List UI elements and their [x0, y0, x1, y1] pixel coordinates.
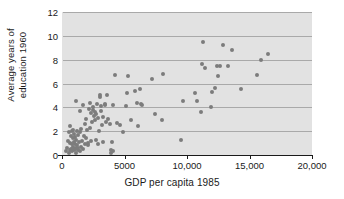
data-point — [133, 89, 137, 93]
y-axis-title-line-2: education 1960 — [17, 0, 29, 132]
x-tick-mark-10000 — [187, 155, 188, 159]
y-tick-label-2: 2 — [36, 126, 58, 137]
x-tick-mark-15000 — [250, 155, 251, 159]
data-point — [74, 99, 78, 103]
data-point — [126, 74, 130, 78]
y-tick-label-4: 4 — [36, 102, 58, 113]
data-point — [91, 105, 95, 109]
data-point — [83, 122, 87, 126]
x-axis-title: GDP per capita 1985 — [0, 177, 344, 188]
x-tick-label-10000: 10,000 — [172, 160, 201, 171]
data-point — [138, 87, 142, 91]
data-point — [88, 101, 92, 105]
data-point — [84, 117, 88, 121]
y-tick-label-6: 6 — [36, 78, 58, 89]
data-point — [88, 126, 92, 130]
data-point — [140, 103, 144, 107]
data-point — [125, 91, 129, 95]
data-point — [161, 72, 165, 76]
data-point — [78, 109, 82, 113]
data-point — [201, 40, 205, 44]
data-point — [203, 66, 207, 70]
data-point — [124, 104, 128, 108]
data-point — [101, 140, 105, 144]
data-point — [113, 73, 117, 77]
data-point — [101, 115, 105, 119]
data-point — [150, 77, 154, 81]
data-point — [81, 103, 85, 107]
data-point — [181, 99, 185, 103]
x-tick-label-20000: 20,000 — [297, 160, 326, 171]
data-point — [160, 118, 164, 122]
data-point — [129, 118, 133, 122]
data-point — [105, 93, 109, 97]
data-point — [239, 87, 243, 91]
gridline-y-6 — [62, 84, 312, 85]
data-point — [98, 93, 102, 97]
data-point — [255, 73, 259, 77]
y-tick-label-8: 8 — [36, 54, 58, 65]
data-point — [110, 140, 114, 144]
data-point — [136, 124, 140, 128]
gridline-y-10 — [62, 36, 312, 37]
data-point — [94, 138, 98, 142]
y-tick-label-12: 12 — [36, 7, 58, 18]
scatter-chart-figure: Average years of education 1960 02468101… — [0, 0, 344, 199]
data-point — [199, 110, 203, 114]
x-tick-label-0: 0 — [59, 160, 64, 171]
data-point — [108, 122, 112, 126]
y-axis-line — [62, 12, 63, 156]
data-point — [99, 109, 103, 113]
y-axis-title-line-1: Average years of — [5, 0, 17, 132]
data-point — [96, 142, 100, 146]
data-point — [179, 138, 183, 142]
data-point — [213, 86, 217, 90]
y-axis-title: Average years of education 1960 — [5, 0, 35, 132]
gridline-y-12 — [62, 12, 312, 13]
y-tick-label-0: 0 — [36, 150, 58, 161]
data-point — [89, 139, 93, 143]
data-point — [221, 43, 225, 47]
data-point — [230, 48, 234, 52]
x-tick-label-5000: 5000 — [114, 160, 135, 171]
x-tick-mark-20000 — [312, 155, 313, 159]
data-point — [106, 117, 110, 121]
data-point — [103, 102, 107, 106]
y-tick-mark-0 — [58, 155, 62, 156]
data-point — [84, 136, 88, 140]
data-point — [218, 64, 222, 68]
data-point — [121, 130, 125, 134]
data-point — [153, 112, 157, 116]
data-point — [81, 147, 85, 151]
x-tick-label-15000: 15,000 — [235, 160, 264, 171]
data-point — [111, 149, 115, 153]
data-point — [210, 90, 214, 94]
data-point — [96, 116, 100, 120]
y-axis-tick-labels: 024681012 — [36, 0, 58, 199]
data-point — [193, 91, 197, 95]
data-point — [118, 123, 122, 127]
x-tick-mark-5000 — [125, 155, 126, 159]
data-point — [209, 105, 213, 109]
data-point — [226, 64, 230, 68]
plot-area — [62, 12, 312, 155]
data-point — [195, 99, 199, 103]
data-point — [266, 52, 270, 56]
data-point — [259, 58, 263, 62]
x-tick-mark-0 — [62, 155, 63, 159]
data-point — [216, 74, 220, 78]
data-point — [100, 123, 104, 127]
y-tick-label-10: 10 — [36, 30, 58, 41]
data-point — [97, 129, 101, 133]
gridline-y-8 — [62, 60, 312, 61]
